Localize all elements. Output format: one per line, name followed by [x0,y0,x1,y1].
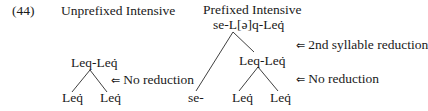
right-root-annotation: ⇐2nd syllable reduction [296,37,428,53]
example-number: (44) [12,3,35,18]
right-tree-inner-node: Leq-Leq̇ [239,53,285,68]
right-tree-leaf-1: Leq̇ [232,90,253,105]
right-inner-annotation-text: No reduction [308,71,379,86]
right-tree-prefix: se- [188,90,204,105]
left-tree-leaf-2: Leq̇ [100,90,121,105]
right-branch-inner [233,32,254,52]
left-arrow-icon: ⇐ [111,74,120,87]
right-branch-prefix [196,32,233,91]
left-tree-leaf-1: Leq̇ [62,90,83,105]
right-inner-branch-right [258,67,278,91]
right-root-annotation-text: 2nd syllable reduction [308,37,428,52]
right-inner-annotation: ⇐No reduction [296,71,379,87]
left-tree-title: Unprefixed Intensive [61,3,175,18]
left-annotation-text: No reduction [123,72,194,87]
left-branch-right [90,70,107,92]
right-inner-arrow-icon: ⇐ [296,73,305,86]
right-tree-leaf-2: Leq̇ [270,90,291,105]
right-tree-root: se-L[ə]q-Leq̇ [213,17,284,32]
right-tree-title: Prefixed Intensive [203,2,302,17]
left-tree-annotation: ⇐No reduction [111,72,194,88]
right-root-arrow-icon: ⇐ [296,39,305,52]
left-tree-root: Leq-Leq̇ [71,55,117,70]
right-inner-branch-left [239,67,258,91]
left-branch-left [72,70,90,92]
